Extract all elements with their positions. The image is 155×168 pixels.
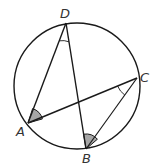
segment-da (28, 23, 66, 123)
angle-mark-d (59, 41, 69, 42)
segment-db (66, 23, 86, 149)
angle-mark-c (118, 86, 125, 95)
inscribed-angles-diagram: D C A B (0, 0, 155, 168)
point-label-c: C (140, 70, 150, 85)
point-label-d: D (60, 6, 70, 21)
circle (14, 23, 140, 149)
point-label-a: A (15, 124, 25, 139)
point-label-b: B (82, 151, 91, 166)
diagram-canvas: D C A B (0, 0, 155, 168)
